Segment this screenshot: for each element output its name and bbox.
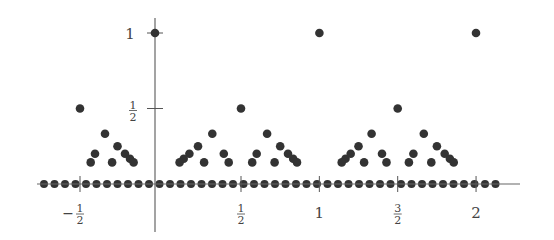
- fraction-denominator: 2: [130, 111, 137, 124]
- rational-dot: [315, 29, 324, 38]
- rational-dot: [393, 104, 402, 113]
- rational-dot: [252, 150, 261, 159]
- rational-dot: [108, 158, 117, 167]
- rational-dot: [449, 158, 458, 167]
- rational-dot: [433, 142, 442, 151]
- rational-dot: [220, 150, 229, 159]
- rational-dot: [382, 158, 391, 167]
- rational-dot: [420, 129, 429, 138]
- rational-dot: [101, 129, 110, 138]
- rational-dot: [270, 158, 279, 167]
- thomae-function-chart: −12121322121: [0, 0, 554, 240]
- tick-labels: −12121322121: [62, 25, 481, 227]
- rational-dot: [360, 158, 369, 167]
- fraction-denominator: 2: [238, 214, 245, 227]
- rational-dot: [263, 129, 272, 138]
- rational-dot: [367, 129, 376, 138]
- rational-dot: [113, 142, 122, 151]
- rational-dot: [405, 158, 414, 167]
- rational-dot: [76, 104, 85, 113]
- rational-dot: [354, 142, 363, 151]
- rational-dot: [237, 104, 246, 113]
- rational-dot: [175, 158, 184, 167]
- fraction-denominator: 2: [77, 214, 84, 227]
- rational-dot: [86, 158, 95, 167]
- rational-dot: [129, 158, 138, 167]
- y-tick-label: 1: [125, 25, 135, 43]
- rational-dot: [293, 158, 302, 167]
- rational-dot: [472, 29, 481, 38]
- rational-dot: [337, 158, 346, 167]
- fraction-denominator: 2: [394, 214, 401, 227]
- axis-ticks: [80, 33, 476, 192]
- rational-dot: [194, 142, 203, 151]
- x-tick-label: 2: [471, 204, 481, 222]
- minus-sign: −: [62, 205, 74, 221]
- rational-dot: [208, 129, 217, 138]
- rational-dot: [409, 150, 418, 159]
- rational-dot: [276, 142, 285, 151]
- rational-dot: [151, 29, 160, 38]
- rational-dot: [200, 158, 209, 167]
- rational-dot: [378, 150, 387, 159]
- rational-dot: [427, 158, 436, 167]
- rational-dot: [91, 150, 100, 159]
- rational-dot: [224, 158, 233, 167]
- rational-dot: [248, 158, 257, 167]
- x-tick-label: 1: [315, 204, 325, 222]
